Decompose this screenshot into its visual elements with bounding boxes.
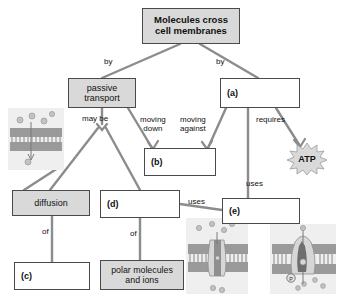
channel-protein-illustration <box>186 218 248 294</box>
connector-label-of-right: of <box>130 230 137 239</box>
node-d[interactable]: (d) <box>100 190 180 218</box>
connector-label-moving-down: moving down <box>140 116 166 134</box>
atp-burst: ATP <box>286 142 328 176</box>
connector-label-by-right: by <box>216 58 224 67</box>
svg-text:P: P <box>289 276 293 282</box>
connector-label-requires: requires <box>256 116 285 125</box>
connector-label-moving-against: moving against <box>180 116 206 134</box>
node-b[interactable]: (b) <box>144 148 216 176</box>
atp-label: ATP <box>298 154 315 164</box>
lipid-bilayer-diffusion-illustration <box>8 108 64 170</box>
node-a[interactable]: (a) <box>220 78 300 108</box>
node-e[interactable]: (e) <box>222 198 300 224</box>
connector-label-uses-left: uses <box>188 198 205 207</box>
node-passive-transport[interactable]: passive transport <box>68 78 136 108</box>
connector-label-of-left: of <box>42 228 49 237</box>
concept-map-diagram: P ATP Molecules cross cell membranes pas… <box>0 0 340 296</box>
node-c[interactable]: (c) <box>14 262 90 290</box>
connector-label-may-be: may be <box>82 115 108 124</box>
connector-label-by-left: by <box>104 58 112 67</box>
connector-label-uses-right: uses <box>246 180 263 189</box>
node-diffusion[interactable]: diffusion <box>12 190 90 216</box>
pump-protein-phosphate-illustration: P <box>270 224 336 294</box>
node-polar-molecules-and-ions[interactable]: polar molecules and ions <box>100 260 184 290</box>
node-molecules-cross-cell-membranes[interactable]: Molecules cross cell membranes <box>142 8 240 44</box>
